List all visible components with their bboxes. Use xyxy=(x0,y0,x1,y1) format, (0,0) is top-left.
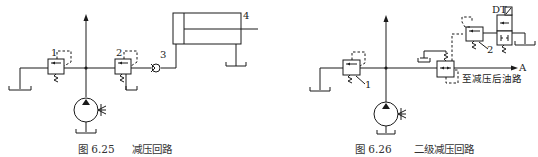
svg-text:1: 1 xyxy=(51,47,57,58)
svg-text:2: 2 xyxy=(487,44,493,55)
note-text: 至减压后油路 xyxy=(462,73,522,84)
svg-text:2: 2 xyxy=(116,47,122,58)
motor-shaft-icon xyxy=(398,108,406,120)
cylinder-4: 4 xyxy=(173,10,258,44)
tank-icon xyxy=(418,58,430,62)
svg-text:4: 4 xyxy=(243,10,249,21)
reducing-valve-main xyxy=(418,34,463,83)
svg-text:3: 3 xyxy=(160,49,166,60)
flow-arrow-icon xyxy=(84,14,89,21)
flow-arrow-icon xyxy=(511,66,518,71)
caption-title: 减压回路 xyxy=(132,143,173,155)
caption-title: 二级减压回路 xyxy=(414,143,475,155)
motor-shaft-icon xyxy=(98,104,106,116)
caption-number: 图 6.25 xyxy=(78,143,115,155)
relief-valve-1: 1 xyxy=(48,47,71,82)
pump xyxy=(74,98,106,133)
relief-valve-2: 2 xyxy=(462,17,493,55)
caption-number: 图 6.26 xyxy=(355,143,392,155)
check-valve-3: 3 xyxy=(151,49,166,72)
figure-6-26: A 1 至减压后油路 xyxy=(310,4,535,155)
relief-valve-1: 1 xyxy=(343,52,371,90)
svg-text:A: A xyxy=(518,62,527,73)
hydraulic-diagrams: 1 2 3 4 xyxy=(0,0,538,157)
svg-text:1: 1 xyxy=(365,79,371,90)
figure-6-25: 1 2 3 4 xyxy=(9,10,258,155)
pump xyxy=(374,102,406,134)
solenoid-valve-dt: DT xyxy=(492,4,512,53)
flow-arrow-icon xyxy=(384,15,389,22)
svg-text:DT: DT xyxy=(492,4,507,15)
